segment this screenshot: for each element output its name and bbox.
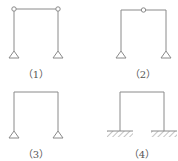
frame-1 (9, 7, 63, 58)
hinge-icon (141, 8, 145, 12)
pin-support-icon (9, 51, 19, 58)
pin-support-icon (161, 51, 171, 58)
figure-label-3: （3） (16, 146, 56, 161)
figure-label-2: （2） (123, 66, 163, 81)
pin-support-icon (53, 51, 63, 58)
frame-2 (116, 8, 171, 58)
pin-support-icon (9, 131, 19, 138)
pin-support-icon (116, 51, 126, 58)
fixed-support-icon (107, 131, 133, 137)
hinge-icon (12, 7, 16, 11)
frame-4 (107, 92, 177, 137)
fixed-support-icon (151, 131, 177, 137)
hinge-icon (56, 7, 60, 11)
frame-3 (9, 92, 63, 138)
figure-label-4: （4） (122, 146, 162, 161)
pin-support-icon (53, 131, 63, 138)
figure-label-1: （1） (16, 66, 56, 81)
